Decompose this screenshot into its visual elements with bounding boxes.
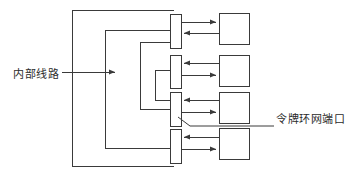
diagram-canvas: 内部线路 令牌环网端口 — [0, 0, 357, 175]
network-node-2[interactable] — [219, 55, 249, 86]
token-ring-port-2[interactable] — [170, 55, 181, 88]
network-topology-diagram — [0, 0, 357, 175]
link-row-2 — [181, 63, 219, 75]
link-row-3 — [181, 100, 219, 112]
token-ring-port-3[interactable] — [170, 92, 181, 126]
bus-loop-third — [140, 42, 174, 109]
network-node-1[interactable] — [219, 13, 249, 44]
token-ring-port-1[interactable] — [170, 14, 181, 48]
network-node-3[interactable] — [219, 92, 249, 123]
link-row-1 — [181, 22, 219, 33]
token-ring-port-4[interactable] — [170, 129, 181, 163]
token-ring-port-label: 令牌环网端口 — [276, 110, 345, 126]
network-node-4[interactable] — [219, 128, 249, 159]
bus-loop-outer — [72, 10, 174, 166]
link-row-4 — [181, 137, 219, 149]
internal-circuit-label: 内部线路 — [13, 65, 59, 81]
